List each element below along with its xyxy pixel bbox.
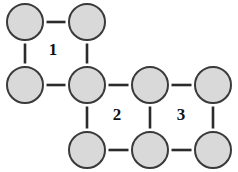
region-label-r3: 3 [177, 105, 186, 124]
graph-vertex-middle-third [132, 67, 168, 103]
graph-vertex-bottom-fourth [195, 132, 231, 168]
region-label-r2: 2 [113, 105, 122, 124]
graph-vertex-bottom-third [132, 132, 168, 168]
region-label-r1: 1 [49, 40, 58, 59]
graph-vertex-top-second [69, 4, 105, 40]
graph-vertex-top-left [7, 4, 43, 40]
graph-vertex-bottom-second [69, 132, 105, 168]
graph-vertex-middle-first [7, 67, 43, 103]
graph-vertex-middle-second [69, 67, 105, 103]
graph-canvas: 123 [0, 0, 238, 172]
graph-figure: 123 [0, 0, 238, 172]
graph-vertex-middle-fourth [195, 67, 231, 103]
